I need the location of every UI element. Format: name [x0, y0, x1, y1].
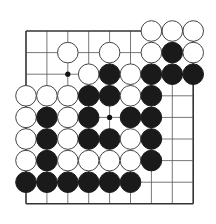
- black-stone[interactable]: [99, 86, 120, 107]
- white-stone[interactable]: [16, 107, 37, 128]
- white-stone[interactable]: [58, 107, 79, 128]
- white-stone[interactable]: [16, 150, 37, 171]
- white-stone[interactable]: [141, 42, 162, 63]
- black-stone[interactable]: [37, 129, 58, 150]
- black-stone[interactable]: [78, 107, 99, 128]
- black-stone[interactable]: [78, 129, 99, 150]
- black-stone[interactable]: [141, 107, 162, 128]
- black-stone[interactable]: [99, 172, 120, 193]
- star-point: [65, 72, 70, 77]
- white-stone[interactable]: [16, 129, 37, 150]
- black-stone[interactable]: [78, 86, 99, 107]
- black-stone[interactable]: [37, 107, 58, 128]
- black-stone[interactable]: [78, 172, 99, 193]
- black-stone[interactable]: [16, 172, 37, 193]
- white-stone[interactable]: [99, 150, 120, 171]
- star-point: [107, 115, 112, 120]
- black-stone[interactable]: [162, 42, 183, 63]
- white-stone[interactable]: [120, 64, 141, 85]
- white-stone[interactable]: [37, 86, 58, 107]
- white-stone[interactable]: [183, 42, 204, 63]
- black-stone[interactable]: [162, 64, 183, 85]
- black-stone[interactable]: [99, 129, 120, 150]
- white-stone[interactable]: [58, 129, 79, 150]
- white-stone[interactable]: [58, 42, 79, 63]
- white-stone[interactable]: [120, 86, 141, 107]
- black-stone[interactable]: [120, 172, 141, 193]
- white-stone[interactable]: [141, 21, 162, 42]
- black-stone[interactable]: [141, 129, 162, 150]
- black-stone[interactable]: [120, 107, 141, 128]
- black-stone[interactable]: [37, 150, 58, 171]
- white-stone[interactable]: [16, 86, 37, 107]
- white-stone[interactable]: [58, 150, 79, 171]
- black-stone[interactable]: [141, 150, 162, 171]
- white-stone[interactable]: [120, 129, 141, 150]
- go-board[interactable]: [0, 0, 216, 224]
- white-stone[interactable]: [162, 21, 183, 42]
- black-stone[interactable]: [141, 86, 162, 107]
- black-stone[interactable]: [58, 172, 79, 193]
- white-stone[interactable]: [183, 21, 204, 42]
- white-stone[interactable]: [58, 86, 79, 107]
- black-stone[interactable]: [141, 64, 162, 85]
- white-stone[interactable]: [120, 150, 141, 171]
- black-stone[interactable]: [37, 172, 58, 193]
- white-stone[interactable]: [78, 64, 99, 85]
- white-stone[interactable]: [99, 42, 120, 63]
- black-stone[interactable]: [183, 64, 204, 85]
- black-stone[interactable]: [99, 64, 120, 85]
- white-stone[interactable]: [78, 150, 99, 171]
